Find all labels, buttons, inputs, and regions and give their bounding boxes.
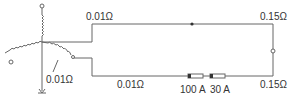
- label-fuse-30a: 30 A: [210, 85, 230, 95]
- terminal-icon: [271, 49, 275, 53]
- junction-dot-icon: [190, 22, 193, 25]
- label-bottom-right-resistance: 0.15Ω: [260, 80, 287, 90]
- terminal-icon: [40, 4, 44, 8]
- fuse-100a-icon: [188, 74, 203, 78]
- earth-resistance-marker: [53, 60, 58, 72]
- coil-winding-vertical: [42, 15, 44, 36]
- coil-winding-right: [42, 42, 71, 55]
- label-top-left-resistance: 0.01Ω: [86, 12, 113, 22]
- coil-winding-left: [5, 41, 42, 53]
- circuit-diagram: 0.01Ω 0.15Ω 0.01Ω 0.01Ω 0.15Ω 100 A 30 A: [0, 0, 291, 106]
- circuit-wiring: [0, 0, 291, 106]
- fuse-30a-icon: [210, 74, 225, 78]
- label-bottom-left-resistance: 0.01Ω: [117, 80, 144, 90]
- label-fuse-100a: 100 A: [180, 85, 206, 95]
- label-earth-resistance: 0.01Ω: [46, 75, 73, 85]
- terminal-icon: [9, 60, 13, 64]
- loop-conductor: [42, 24, 273, 76]
- label-top-right-resistance: 0.15Ω: [260, 12, 287, 22]
